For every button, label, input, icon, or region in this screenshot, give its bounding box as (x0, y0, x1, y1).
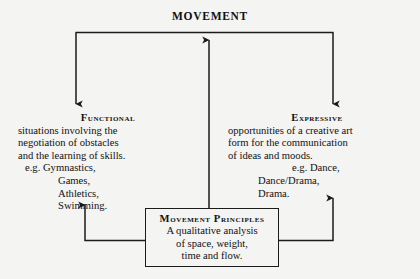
branch-functional-line-3: and the learning of skills. (18, 150, 194, 163)
branch-functional-line-1: situations involving the (18, 125, 194, 138)
branch-functional-body: situations involving the negotiation of … (18, 125, 194, 213)
movement-principles-line-2: of space, weight, (146, 238, 278, 250)
branch-expressive-heading: Expressive (226, 112, 408, 125)
branch-expressive-line-3: of ideas and moods. (228, 150, 408, 163)
movement-principles-line-1: A qualitative analysis (146, 225, 278, 237)
branch-functional-examples-lead: e.g. Gymnastics, (18, 162, 194, 175)
branch-expressive-line-1: opportunities of a creative art (228, 125, 408, 138)
branch-expressive-examples-lead: e.g. Dance, (228, 162, 408, 175)
movement-principles-line-3: time and flow. (146, 250, 278, 262)
branch-functional-heading: Functional (22, 112, 194, 125)
movement-principles-heading: Movement Principles (146, 213, 278, 225)
branch-functional: Functional situations involving the nego… (18, 112, 194, 213)
branch-functional-example-1: Games, (18, 175, 194, 188)
branch-functional-line-2: negotiation of obstacles (18, 137, 194, 150)
branch-expressive-example-2: Drama. (228, 188, 408, 201)
branch-expressive-body: opportunities of a creative art form for… (228, 125, 408, 201)
branch-expressive-line-2: form for the communication (228, 137, 408, 150)
diagram-canvas: MOVEMENT Functional situations involving… (0, 0, 420, 279)
branch-functional-example-2: Athletics, (18, 188, 194, 201)
arrow-principles-to-expressive (279, 198, 333, 241)
movement-principles-box: Movement Principles A qualitative analys… (145, 208, 279, 267)
diagram-title: MOVEMENT (0, 9, 420, 23)
branch-expressive: Expressive opportunities of a creative a… (228, 112, 408, 200)
branch-expressive-example-1: Dance/Drama, (228, 175, 408, 188)
